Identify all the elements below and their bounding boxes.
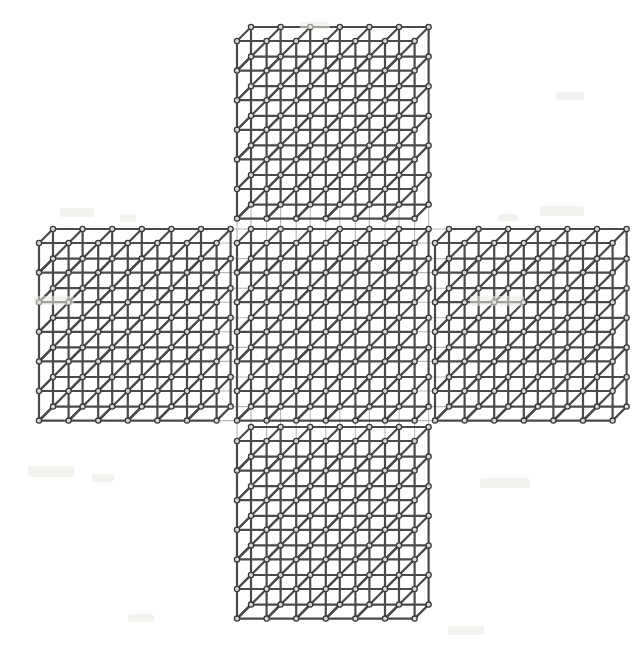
lattice-node-back bbox=[337, 113, 342, 118]
lattice-node-front bbox=[66, 329, 71, 334]
lattice-node-back bbox=[337, 454, 342, 459]
lattice-node-front bbox=[610, 418, 615, 423]
lattice-node-back bbox=[396, 84, 401, 89]
lattice-node-front bbox=[264, 186, 269, 191]
lattice-node-front bbox=[551, 388, 556, 393]
lattice-node-back bbox=[476, 226, 481, 231]
lattice-node-front bbox=[412, 98, 417, 103]
lattice-node-front bbox=[492, 418, 497, 423]
lattice-node-back bbox=[248, 484, 253, 489]
lattice-node-back bbox=[278, 24, 283, 29]
lattice-node-front bbox=[492, 300, 497, 305]
lattice-node-front bbox=[382, 388, 387, 393]
lattice-node-front bbox=[462, 270, 467, 275]
lattice-node-front bbox=[580, 388, 585, 393]
lattice-node-back bbox=[396, 54, 401, 59]
lattice-node-front bbox=[521, 270, 526, 275]
lattice-node-back bbox=[426, 572, 431, 577]
lattice-node-front bbox=[234, 38, 239, 43]
lattice-node-front bbox=[610, 359, 615, 364]
lattice-node-back bbox=[169, 345, 174, 350]
lattice-node-back bbox=[396, 24, 401, 29]
lattice-node-front bbox=[214, 359, 219, 364]
lattice-node-front bbox=[294, 468, 299, 473]
lattice-node-front bbox=[353, 68, 358, 73]
lattice-node-front bbox=[412, 527, 417, 532]
lattice-node-front bbox=[412, 38, 417, 43]
lattice-node-back bbox=[337, 424, 342, 429]
lattice-node-back bbox=[139, 374, 144, 379]
lattice-node-front bbox=[323, 98, 328, 103]
lattice-node-back bbox=[308, 315, 313, 320]
lattice-node-back bbox=[139, 226, 144, 231]
lattice-node-front bbox=[234, 157, 239, 162]
lattice-node-front bbox=[382, 270, 387, 275]
lattice-node-front bbox=[323, 498, 328, 503]
lattice-node-front bbox=[66, 359, 71, 364]
lattice-node-back bbox=[506, 226, 511, 231]
lattice-node-front bbox=[294, 68, 299, 73]
lattice-node-back bbox=[396, 543, 401, 548]
lattice-node-front bbox=[323, 329, 328, 334]
lattice-node-back bbox=[308, 172, 313, 177]
lattice-node-front bbox=[462, 388, 467, 393]
lattice-node-back bbox=[426, 24, 431, 29]
lattice-node-front bbox=[125, 240, 130, 245]
lattice-node-back bbox=[426, 602, 431, 607]
lattice-node-front bbox=[353, 216, 358, 221]
lattice-node-back bbox=[278, 513, 283, 518]
lattice-node-back bbox=[446, 286, 451, 291]
lattice-node-back bbox=[248, 572, 253, 577]
lattice-node-front bbox=[264, 498, 269, 503]
lattice-node-back bbox=[367, 286, 372, 291]
lattice-node-front bbox=[412, 157, 417, 162]
lattice-edge-layer bbox=[39, 27, 627, 619]
lattice-node-back bbox=[248, 256, 253, 261]
lattice-node-back bbox=[248, 404, 253, 409]
lattice-node-front bbox=[184, 418, 189, 423]
lattice-node-front bbox=[294, 98, 299, 103]
lattice-node-back bbox=[248, 24, 253, 29]
lattice-node-back bbox=[248, 543, 253, 548]
lattice-node-front bbox=[125, 329, 130, 334]
lattice-node-back bbox=[476, 256, 481, 261]
lattice-node-front bbox=[125, 388, 130, 393]
lattice-node-front bbox=[382, 216, 387, 221]
lattice-node-front bbox=[551, 418, 556, 423]
lattice-node-front bbox=[294, 38, 299, 43]
lattice-node-front bbox=[353, 586, 358, 591]
lattice-node-front bbox=[264, 38, 269, 43]
lattice-node-back bbox=[278, 84, 283, 89]
lattice-node-back bbox=[476, 315, 481, 320]
lattice-node-front bbox=[353, 270, 358, 275]
lattice-node-front bbox=[412, 468, 417, 473]
lattice-node-back bbox=[396, 226, 401, 231]
lattice-node-front bbox=[353, 418, 358, 423]
lattice-node-front bbox=[353, 616, 358, 621]
lattice-node-back bbox=[308, 424, 313, 429]
lattice-node-front bbox=[66, 300, 71, 305]
lattice-node-front bbox=[66, 388, 71, 393]
lattice-node-back bbox=[308, 484, 313, 489]
lattice-node-back bbox=[337, 226, 342, 231]
lattice-node-front bbox=[551, 300, 556, 305]
lattice-node-back bbox=[278, 226, 283, 231]
lattice-node-front bbox=[294, 616, 299, 621]
lattice-node-front bbox=[96, 329, 101, 334]
lattice-node-front bbox=[353, 240, 358, 245]
lattice-node-front bbox=[184, 300, 189, 305]
lattice-node-front bbox=[234, 498, 239, 503]
lattice-node-front bbox=[323, 586, 328, 591]
lattice-node-front bbox=[412, 498, 417, 503]
lattice-node-back bbox=[506, 374, 511, 379]
figure-root bbox=[0, 0, 635, 656]
lattice-node-front bbox=[234, 359, 239, 364]
lattice-node-back bbox=[278, 374, 283, 379]
lattice-node-front bbox=[264, 329, 269, 334]
lattice-node-back bbox=[506, 315, 511, 320]
lattice-node-front bbox=[521, 240, 526, 245]
lattice-node-back bbox=[426, 54, 431, 59]
lattice-node-front bbox=[353, 329, 358, 334]
lattice-node-back bbox=[396, 202, 401, 207]
lattice-node-front bbox=[234, 240, 239, 245]
